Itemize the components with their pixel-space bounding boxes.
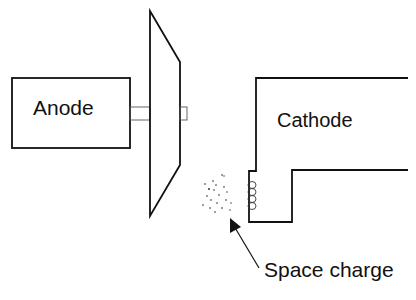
space-charge-cloud [202, 174, 232, 213]
space-charge-label: Space charge [264, 258, 394, 282]
diagram-canvas [0, 0, 416, 300]
cathode-label: Cathode [277, 109, 353, 132]
anode-stem [130, 107, 150, 120]
cathode-block [249, 78, 408, 222]
disk-stub [180, 107, 187, 120]
pointer-arrow [230, 218, 259, 268]
anode-label: Anode [33, 96, 94, 120]
focusing-disk [150, 11, 180, 216]
